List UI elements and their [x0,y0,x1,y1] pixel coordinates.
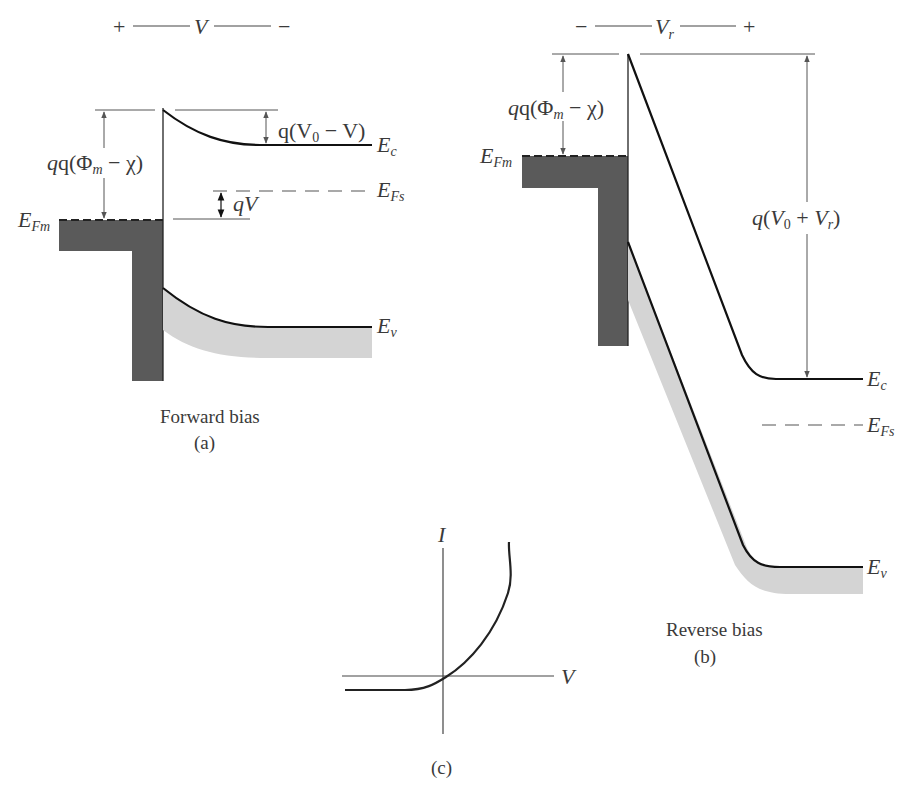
panel-c-x-label: V [561,664,577,689]
panel-b-reverse-bias: − Vr + qq(Φm − χ) q(V0 + V [479,14,895,668]
panel-c-iv-curve: I V (c) [342,522,577,779]
panel-b-tag: (b) [694,646,716,668]
panel-a-bias-label: + V − [113,14,290,39]
svg-text:−: − [278,14,290,39]
panel-b-efs-label: EFs [866,412,895,439]
panel-b-ev-curve [628,242,863,567]
panel-a-metal-block [59,220,163,381]
panel-a-barrier-semi-label: q(V0 − V) [278,118,365,145]
panel-a-caption: Forward bias [160,406,260,427]
panel-b-ev-label: Ev [866,554,887,581]
svg-text:+: + [743,14,755,39]
panel-b-barrier-metal-label: qq(Φm − χ) [508,95,604,122]
panel-a-qv-label: qV [233,191,260,216]
svg-text:V: V [194,14,210,39]
panel-b-valence-band-fill [628,242,863,594]
panel-b-metal-block [522,156,628,346]
panel-c-y-label: I [437,522,447,547]
panel-a-tag: (a) [194,432,215,454]
panel-a-ev-label: Ev [376,313,397,340]
svg-text:Vr: Vr [655,14,674,42]
panel-a-barrier-metal-label: qq(Φm − χ) [47,150,143,177]
panel-a-valence-band-fill [163,288,372,358]
svg-text:−: − [575,14,587,39]
panel-c-current-curve [345,542,511,690]
panel-a-efm-label: EFm [17,207,50,234]
panel-c-tag: (c) [431,757,452,779]
schottky-band-diagram-figure: + V − qq(Φm − χ) q(V0 [0,0,916,803]
panel-a-forward-bias: + V − qq(Φm − χ) q(V0 [17,14,405,454]
panel-b-barrier-semi-label: q(V0 + Vr) [752,205,840,232]
panel-b-efm-label: EFm [479,143,512,170]
panel-b-bias-label: − Vr + [575,14,755,42]
panel-b-caption: Reverse bias [666,619,763,640]
panel-a-ec-label: Ec [376,132,397,159]
svg-text:+: + [113,14,125,39]
panel-b-ec-label: Ec [866,366,887,393]
panel-a-efs-label: EFs [376,177,405,204]
